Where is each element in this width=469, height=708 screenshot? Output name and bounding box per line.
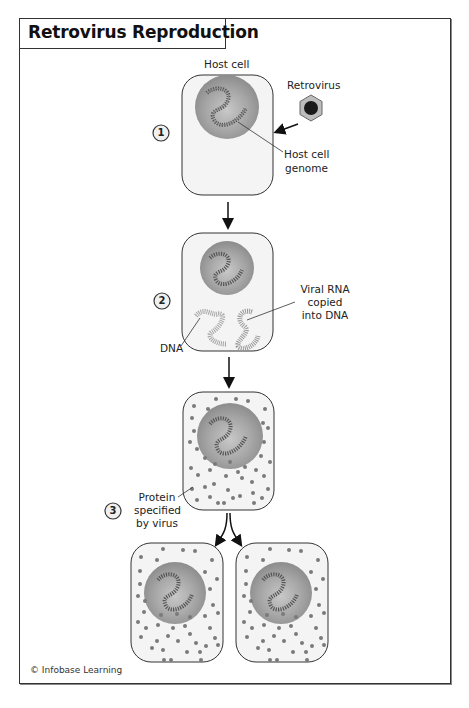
step-3-number: 3 [107,504,119,517]
retrovirus-label: Retrovirus [287,79,340,92]
daughter-cell-right [236,543,328,662]
arrow-split-left [218,513,227,542]
dna-label: DNA [160,342,183,355]
step-3-host-cell [183,392,274,510]
daughter-cell-left [131,543,223,662]
host-genome-label-line2: genome [285,162,328,175]
host-cell-label: Host cell [204,58,249,71]
virus-entry-arrow [279,124,298,131]
protein-label-line1: Protein [134,491,180,504]
viral-rna-label-line2: copied [296,296,354,309]
step-1-number: 1 [155,126,167,139]
protein-label-line3: by virus [134,517,180,530]
copyright-credit: © Infobase Learning [30,665,122,675]
viral-rna-label-line1: Viral RNA [296,283,354,296]
retrovirus-particle [300,95,322,121]
step-2-number: 2 [156,294,168,307]
host-genome-label-line1: Host cell [284,148,329,161]
protein-label-line2: specified [134,504,180,517]
step-2-host-cell [182,233,273,351]
retrovirus-diagram [0,0,469,708]
step-1-host-cell [182,75,273,195]
arrow-split-right [230,513,239,542]
viral-rna-label-line3: into DNA [296,309,354,322]
